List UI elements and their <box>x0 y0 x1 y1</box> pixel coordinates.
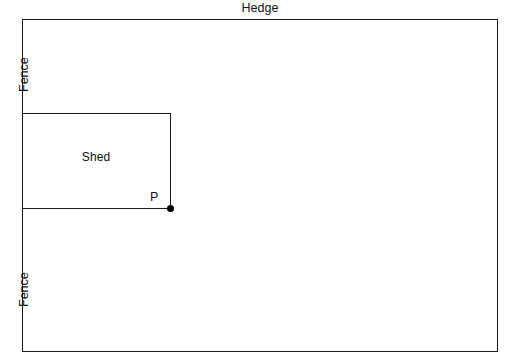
point-p-marker <box>167 205 174 212</box>
fence-boundary-label-lower: Fence <box>17 272 31 307</box>
hedge-boundary-label: Hedge <box>22 1 498 15</box>
shed-edge-bottom <box>22 208 170 209</box>
garden-diagram: Hedge Fence Fence Rail Shed P <box>0 0 507 364</box>
shed-shape: Shed <box>22 113 170 208</box>
shed-edge-top <box>22 113 170 114</box>
fence-boundary-label-upper: Fence <box>17 57 31 92</box>
shed-label: Shed <box>22 150 170 164</box>
shed-edge-right <box>170 113 171 208</box>
point-p-label: P <box>150 190 158 204</box>
